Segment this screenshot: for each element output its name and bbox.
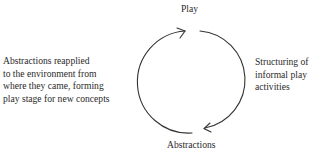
arrowhead-up-icon <box>177 28 185 38</box>
arc-left <box>137 31 192 133</box>
arc-right <box>200 31 245 128</box>
cycle-arrows <box>0 0 330 153</box>
